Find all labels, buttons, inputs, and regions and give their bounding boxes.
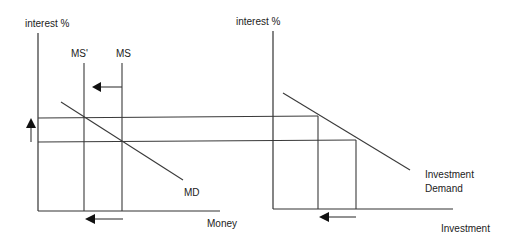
arrow-up-icon: [26, 118, 36, 128]
investment-demand-label-2: Demand: [425, 183, 463, 194]
arrow-left-icon: [85, 214, 95, 224]
ms-label: MS: [116, 48, 131, 59]
left-y-axis-label: interest %: [25, 18, 70, 29]
right-y-axis-label: interest %: [236, 16, 281, 27]
right-x-axis-label: Investment: [441, 223, 490, 234]
right-panel-investment: interest % Investment Demand Investment: [236, 16, 490, 234]
left-x-axis-label: Money: [207, 218, 237, 229]
original-interest-rate-line: [38, 140, 356, 142]
md-label: MD: [184, 187, 200, 198]
new-interest-rate-line: [38, 116, 318, 118]
investment-demand-line: [283, 93, 410, 170]
ms-prime-label: MS': [71, 48, 88, 59]
investment-demand-label-1: Investment: [425, 169, 474, 180]
left-panel-money-market: interest % MS' MS MD Money: [25, 18, 237, 229]
arrow-left-icon: [92, 82, 101, 92]
diagram-canvas: interest % MS' MS MD Money interest % In…: [0, 0, 509, 240]
arrow-left-icon: [319, 212, 329, 222]
